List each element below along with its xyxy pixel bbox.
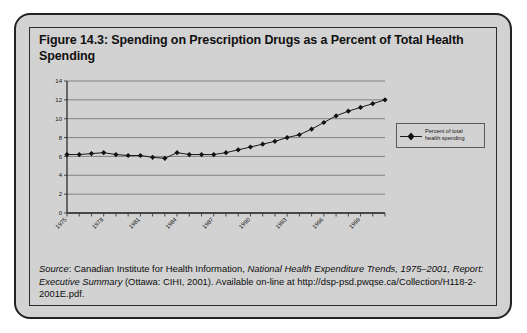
data-point-marker — [309, 126, 314, 131]
data-point-marker — [89, 151, 94, 156]
series-line — [67, 100, 385, 158]
x-axis-tick-label: 1984 — [164, 216, 178, 230]
data-point-marker — [321, 120, 326, 125]
data-point-marker — [272, 139, 277, 144]
y-axis-tick-label: 4 — [59, 172, 63, 178]
page-title: Figure 14.3: Spending on Prescription Dr… — [39, 33, 486, 64]
source-caption: Source: Canadian Institute for Health In… — [39, 263, 484, 301]
y-axis-tick-label: 2 — [59, 191, 63, 197]
x-axis-tick-label: 1996 — [311, 216, 324, 229]
x-axis-tick-label: 1981 — [128, 216, 141, 229]
line-chart: 0246810121419751978198119841987199019931… — [30, 71, 498, 257]
source-colon: : Canadian Institute for Health Informat… — [69, 263, 248, 274]
data-point-marker — [248, 144, 253, 149]
x-axis-tick-label: 1978 — [91, 216, 104, 229]
legend-label-line2: health spending — [425, 135, 465, 141]
data-point-marker — [101, 150, 106, 155]
x-axis-tick-label: 1987 — [201, 216, 214, 229]
y-axis-tick-label: 0 — [59, 210, 63, 216]
data-point-marker — [333, 113, 338, 118]
data-point-marker — [285, 135, 290, 140]
data-point-marker — [223, 150, 228, 155]
data-point-marker — [382, 97, 387, 102]
legend-marker-icon — [398, 124, 424, 149]
data-point-marker — [358, 105, 363, 110]
data-point-marker — [236, 147, 241, 152]
figure-frame: Figure 14.3: Spending on Prescription Dr… — [14, 13, 512, 319]
y-axis-tick-label: 8 — [59, 135, 63, 141]
data-point-marker — [138, 153, 143, 158]
source-prefix: Source — [39, 263, 69, 274]
y-axis-tick-label: 10 — [55, 116, 62, 122]
y-axis-tick-label: 14 — [55, 78, 62, 84]
data-point-marker — [346, 109, 351, 114]
x-axis-tick-label: 1990 — [238, 216, 251, 229]
chart-container: 0246810121419751978198119841987199019931… — [29, 71, 497, 257]
figure-title-box: Figure 14.3: Spending on Prescription Dr… — [29, 27, 497, 71]
legend-label: Percent of total health spending — [425, 128, 483, 143]
data-point-marker — [150, 155, 155, 160]
chart-svg: 0246810121419751978198119841987199019931… — [30, 71, 498, 257]
x-axis-tick-label: 1999 — [348, 216, 361, 229]
data-point-marker — [126, 153, 131, 158]
data-point-marker — [260, 142, 265, 147]
figure-source-box: Source: Canadian Institute for Health In… — [29, 257, 497, 306]
x-axis-tick-label: 1993 — [274, 216, 287, 229]
chart-legend: Percent of total health spending — [396, 123, 485, 148]
x-axis-tick-label: 1975 — [54, 216, 67, 229]
y-axis-tick-label: 12 — [55, 97, 62, 103]
data-point-marker — [174, 150, 179, 155]
y-axis-tick-label: 6 — [59, 154, 63, 160]
legend-label-line1: Percent of total — [425, 128, 463, 134]
data-point-marker — [370, 101, 375, 106]
data-point-marker — [297, 132, 302, 137]
